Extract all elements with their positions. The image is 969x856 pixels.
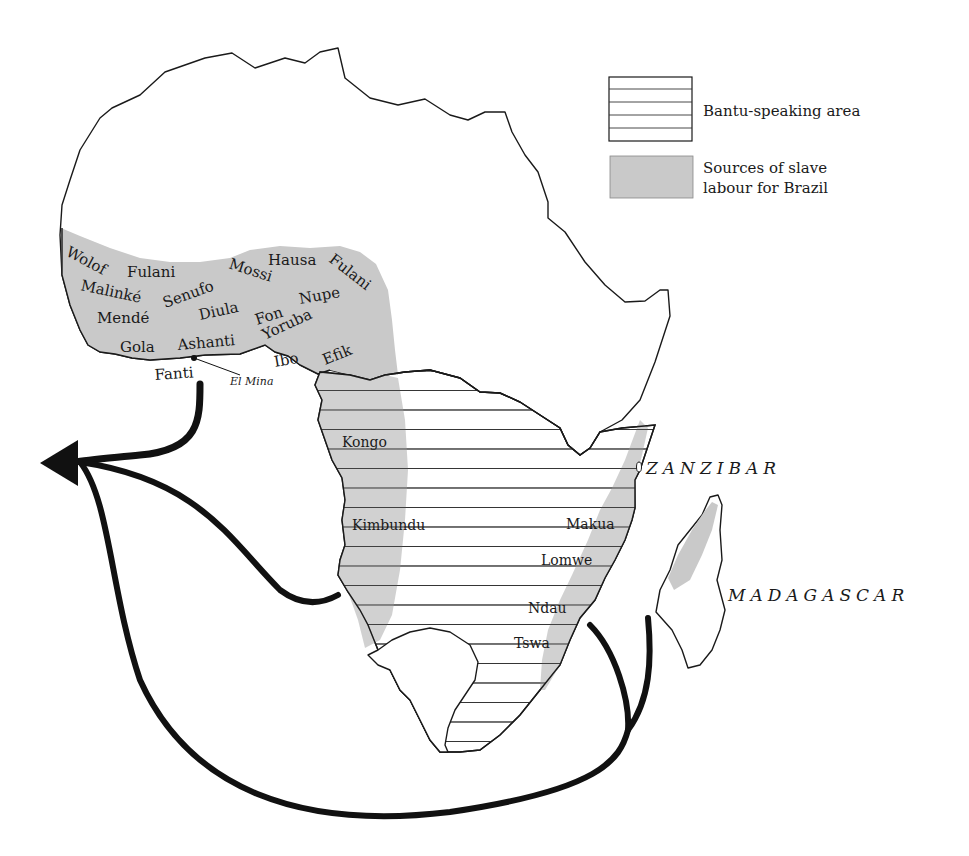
- svg-text:Tswa: Tswa: [514, 635, 550, 651]
- legend-slave-label-line2: labour for Brazil: [703, 179, 828, 197]
- el-mina-leader-line: [194, 358, 240, 375]
- svg-text:Fulani: Fulani: [127, 263, 175, 281]
- route-west-africa: [75, 384, 200, 462]
- africa-slave-trade-map: Wolof Fulani Malinké Senufo Mossi Hausa …: [0, 0, 969, 856]
- svg-text:Mendé: Mendé: [97, 309, 149, 327]
- svg-text:Hausa: Hausa: [268, 251, 316, 269]
- el-mina-label: El Mina: [229, 375, 273, 388]
- zanzibar-label: ZANZIBAR: [645, 458, 781, 478]
- madagascar-outline: [656, 495, 725, 668]
- svg-text:Ndau: Ndau: [528, 600, 567, 616]
- legend-bantu-label: Bantu-speaking area: [703, 102, 860, 120]
- legend-slave-label-line1: Sources of slave: [703, 159, 827, 177]
- zanzibar-island: [637, 462, 642, 472]
- svg-text:Ibo: Ibo: [273, 349, 300, 371]
- svg-text:Kimbundu: Kimbundu: [352, 517, 425, 533]
- svg-text:Gola: Gola: [120, 338, 155, 356]
- legend-item-bantu: Bantu-speaking area: [609, 77, 860, 141]
- route-mozambique-secondary: [628, 618, 650, 730]
- legend: Bantu-speaking area Sources of slave lab…: [609, 77, 860, 198]
- svg-text:Lomwe: Lomwe: [541, 552, 592, 568]
- svg-text:Kongo: Kongo: [342, 434, 387, 450]
- arrowhead-icon: [40, 440, 78, 486]
- svg-text:Makua: Makua: [566, 516, 615, 532]
- legend-item-slave-sources: Sources of slave labour for Brazil: [610, 156, 828, 198]
- svg-text:Fanti: Fanti: [154, 363, 194, 384]
- madagascar-label: MADAGASCAR: [727, 585, 909, 605]
